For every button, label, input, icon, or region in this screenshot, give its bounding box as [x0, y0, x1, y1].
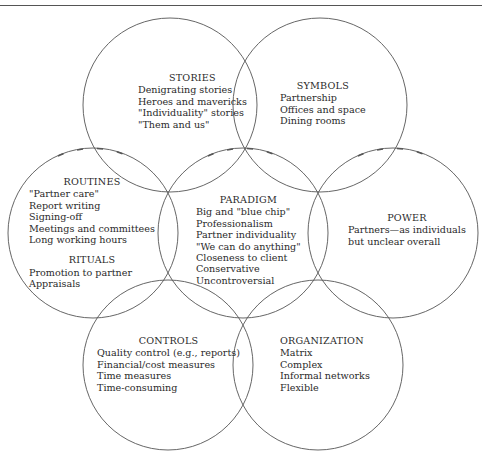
symbols-label: SYMBOLS Partnership Offices and space Di… — [280, 80, 366, 127]
organization-item: Informal networks — [280, 370, 370, 381]
routines-label: ROUTINES "Partner care" Report writing S… — [29, 176, 155, 290]
routines-item: Signing-off — [29, 211, 155, 222]
paradigm-item: Uncontroversial — [196, 275, 301, 286]
rituals-item: Promotion to partner — [29, 267, 155, 278]
controls-item: Quality control (e.g., reports) — [97, 347, 240, 358]
symbols-heading: SYMBOLS — [280, 80, 366, 91]
organization-label: ORGANIZATION Matrix Complex Informal net… — [280, 335, 370, 393]
stories-label: STORIES Denigrating stories Heroes and m… — [138, 72, 247, 130]
controls-item: Time measures — [97, 370, 240, 381]
controls-label: CONTROLS Quality control (e.g., reports)… — [97, 335, 240, 393]
organization-item: Complex — [280, 359, 370, 370]
routines-item: "Partner care" — [29, 188, 155, 199]
stories-item: "Individuality" stories — [138, 107, 247, 118]
controls-item: Financial/cost measures — [97, 359, 240, 370]
rituals-heading: RITUALS — [29, 254, 155, 265]
paradigm-item: Professionalism — [196, 218, 301, 229]
paradigm-item: "We can do anything" — [196, 241, 301, 252]
paradigm-item: Conservative — [196, 263, 301, 274]
routines-heading: ROUTINES — [29, 176, 155, 187]
power-heading: POWER — [348, 212, 466, 223]
dashed-arc-routines — [58, 148, 128, 156]
symbols-item: Offices and space — [280, 104, 366, 115]
power-item: but unclear overall — [348, 236, 466, 247]
paradigm-item: Closeness to client — [196, 252, 301, 263]
paradigm-label: PARADIGM Big and "blue chip" Professiona… — [196, 194, 301, 286]
power-item: Partners—as individuals — [348, 224, 466, 235]
power-label: POWER Partners—as individuals but unclea… — [348, 212, 466, 247]
stories-item: Denigrating stories — [138, 84, 247, 95]
controls-heading: CONTROLS — [97, 335, 240, 346]
routines-item: Meetings and committees — [29, 223, 155, 234]
controls-item: Time-consuming — [97, 382, 240, 393]
organization-heading: ORGANIZATION — [280, 335, 370, 346]
paradigm-heading: PARADIGM — [196, 194, 301, 205]
rituals-item: Appraisals — [29, 278, 155, 289]
paradigm-item: Big and "blue chip" — [196, 206, 301, 217]
stories-item: Heroes and mavericks — [138, 96, 247, 107]
symbols-item: Partnership — [280, 92, 366, 103]
stories-item: "Them and us" — [138, 119, 247, 130]
symbols-item: Dining rooms — [280, 115, 366, 126]
paradigm-item: Partner individuality — [196, 229, 301, 240]
routines-item: Report writing — [29, 200, 155, 211]
routines-item: Long working hours — [29, 234, 155, 245]
stories-heading: STORIES — [138, 72, 247, 83]
organization-item: Matrix — [280, 347, 370, 358]
organization-item: Flexible — [280, 382, 370, 393]
